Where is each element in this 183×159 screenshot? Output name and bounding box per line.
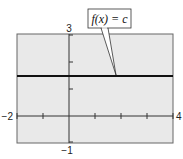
y-min-label: −1 [61,145,73,156]
graph: f(x) = c 3 −1 −2 4 [0,0,183,159]
callout-label: f(x) = c [91,12,128,26]
y-max-label: 3 [66,23,72,34]
x-max-label: 4 [176,111,182,122]
plot-area [17,34,173,143]
x-min-label: −2 [2,111,14,122]
